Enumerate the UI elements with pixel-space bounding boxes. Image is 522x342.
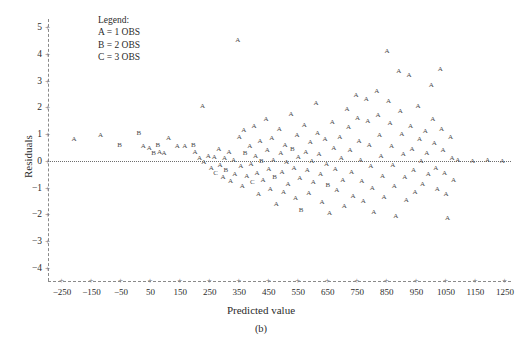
- data-point: A: [201, 159, 206, 166]
- data-point: B: [136, 130, 141, 137]
- x-tick-mark: +: [443, 276, 448, 285]
- data-point: A: [377, 132, 382, 139]
- y-tick-mark: +: [45, 77, 50, 86]
- data-point: A: [438, 66, 443, 73]
- data-point: A: [424, 150, 429, 157]
- data-point: A: [374, 88, 379, 95]
- data-point: A: [485, 157, 490, 164]
- data-point: A: [384, 48, 389, 55]
- data-point: A: [410, 146, 415, 153]
- data-point: A: [415, 103, 420, 110]
- data-point: A: [252, 123, 257, 130]
- data-point: A: [302, 122, 307, 129]
- data-point: A: [200, 103, 205, 110]
- x-tick-mark: +: [148, 276, 153, 285]
- data-point: A: [448, 134, 453, 141]
- y-tick-mark: +: [45, 23, 50, 32]
- data-point: A: [249, 161, 254, 168]
- data-point: A: [232, 171, 237, 178]
- data-point: A: [470, 158, 475, 165]
- y-tick-label: −3: [22, 237, 42, 246]
- data-point: A: [319, 199, 324, 206]
- data-point: A: [71, 136, 76, 143]
- data-point: C: [250, 179, 255, 186]
- data-point: A: [297, 175, 302, 182]
- data-point: A: [346, 124, 351, 131]
- data-point: A: [265, 147, 270, 154]
- legend-entry-a: A = 1 OBS: [98, 26, 140, 38]
- data-point: A: [284, 159, 289, 166]
- data-point: A: [420, 181, 425, 188]
- data-point: A: [286, 181, 291, 188]
- data-point: A: [339, 155, 344, 162]
- data-point: A: [358, 157, 363, 164]
- data-point: A: [257, 138, 262, 145]
- data-point: A: [322, 136, 327, 143]
- x-tick-mark: +: [502, 276, 507, 285]
- x-tick-mark: +: [354, 276, 359, 285]
- legend-entry-b: B = 2 OBS: [98, 39, 140, 51]
- data-point: A: [305, 167, 310, 174]
- data-point: A: [432, 140, 437, 147]
- data-point: A: [235, 37, 240, 44]
- data-point: A: [396, 68, 401, 75]
- data-point: A: [327, 210, 332, 217]
- data-point: A: [218, 162, 223, 169]
- legend: Legend: A = 1 OBS B = 2 OBS C = 3 OBS: [98, 14, 140, 64]
- data-point: A: [367, 142, 372, 149]
- data-point: B: [325, 182, 330, 189]
- x-tick-mark: +: [236, 276, 241, 285]
- figure-caption: (b): [0, 323, 522, 334]
- data-point: A: [417, 136, 422, 143]
- data-point: A: [445, 215, 450, 222]
- data-point: A: [283, 142, 288, 149]
- data-point: A: [226, 149, 231, 156]
- data-point: A: [314, 100, 319, 107]
- data-point: A: [318, 171, 323, 178]
- data-point: A: [444, 191, 449, 198]
- data-point: A: [317, 151, 322, 158]
- y-axis-label: Residuals: [22, 135, 34, 178]
- legend-title: Legend:: [98, 14, 140, 26]
- x-tick-mark: +: [325, 276, 330, 285]
- y-tick-mark: +: [45, 130, 50, 139]
- data-point: A: [253, 153, 258, 160]
- data-point: A: [311, 179, 316, 186]
- data-point: A: [260, 177, 265, 184]
- data-point: A: [324, 161, 329, 168]
- data-point: A: [266, 166, 271, 173]
- data-point: A: [365, 118, 370, 125]
- data-point: A: [212, 154, 217, 161]
- data-point: A: [399, 131, 404, 138]
- data-point: A: [221, 174, 226, 181]
- data-point: A: [345, 106, 350, 113]
- data-point: A: [455, 157, 460, 164]
- data-point: A: [435, 186, 440, 193]
- data-point: A: [393, 213, 398, 220]
- data-point: A: [370, 185, 375, 192]
- data-point: A: [330, 119, 335, 126]
- y-tick-mark: +: [45, 157, 50, 166]
- data-point: A: [166, 135, 171, 142]
- y-tick-label: −2: [22, 210, 42, 219]
- data-point: A: [411, 167, 416, 174]
- x-tick-mark: +: [118, 276, 123, 285]
- data-point: A: [315, 130, 320, 137]
- data-point: A: [206, 153, 211, 160]
- data-point: A: [278, 150, 283, 157]
- data-point: A: [141, 143, 146, 150]
- y-tick-mark: +: [45, 264, 50, 273]
- data-point: A: [380, 173, 385, 180]
- data-point: A: [238, 163, 243, 170]
- data-point: A: [442, 170, 447, 177]
- data-point: A: [277, 126, 282, 133]
- data-point: A: [303, 149, 308, 156]
- data-point: A: [351, 193, 356, 200]
- x-tick-label: 1250: [485, 288, 522, 297]
- data-point: A: [348, 147, 353, 154]
- data-point: B: [259, 158, 264, 165]
- data-point: A: [222, 155, 227, 162]
- data-point: A: [364, 96, 369, 103]
- y-tick-mark: +: [45, 103, 50, 112]
- legend-entry-c: C = 3 OBS: [98, 51, 140, 63]
